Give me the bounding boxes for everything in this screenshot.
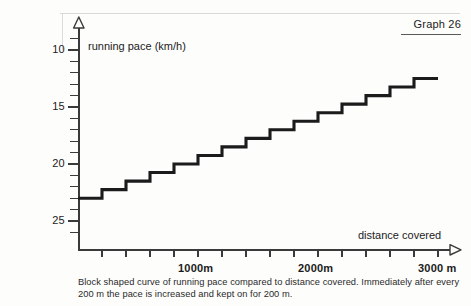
x-tick bbox=[317, 250, 318, 257]
x-tick-label: 2000m bbox=[298, 262, 333, 274]
y-tick-minor bbox=[70, 232, 78, 233]
y-tick-label: 20 bbox=[39, 157, 65, 169]
x-tick bbox=[413, 250, 414, 257]
y-tick-minor bbox=[70, 95, 78, 96]
y-axis-arrow-icon bbox=[74, 17, 84, 28]
graph-page: Graph 26 running pace (km/h) distance co… bbox=[0, 0, 471, 306]
y-tick-minor bbox=[70, 209, 78, 210]
y-tick-label: 10 bbox=[39, 43, 65, 55]
x-tick bbox=[197, 250, 198, 257]
x-tick bbox=[101, 250, 102, 257]
x-axis-title: distance covered bbox=[358, 229, 441, 241]
x-tick bbox=[293, 250, 294, 257]
plot-area: running pace (km/h) distance covered 252… bbox=[0, 0, 471, 306]
x-tick-label: 1000m bbox=[178, 262, 213, 274]
x-tick bbox=[221, 250, 222, 257]
y-axis-line bbox=[78, 28, 80, 250]
x-tick bbox=[245, 250, 246, 257]
y-tick-minor bbox=[70, 72, 78, 73]
x-axis-line bbox=[78, 249, 450, 251]
x-tick bbox=[269, 250, 270, 257]
y-tick-minor bbox=[70, 61, 78, 62]
x-axis-arrow-icon bbox=[450, 245, 461, 255]
y-tick-major bbox=[68, 220, 78, 221]
x-tick-label: 3000 m bbox=[418, 262, 457, 274]
x-tick bbox=[389, 250, 390, 257]
y-tick-label: 15 bbox=[39, 100, 65, 112]
y-tick-major bbox=[68, 163, 78, 164]
y-tick-minor bbox=[70, 141, 78, 142]
y-tick-minor bbox=[70, 129, 78, 130]
y-tick-minor bbox=[70, 38, 78, 39]
y-tick-major bbox=[68, 49, 78, 50]
x-tick bbox=[365, 250, 366, 257]
step-curve-path bbox=[78, 79, 438, 199]
x-tick bbox=[341, 250, 342, 257]
y-tick-minor bbox=[70, 84, 78, 85]
figure-caption: Block shaped curve of running pace compa… bbox=[78, 276, 463, 300]
y-tick-minor bbox=[70, 198, 78, 199]
x-tick bbox=[149, 250, 150, 257]
y-tick-minor bbox=[70, 175, 78, 176]
y-tick-label: 25 bbox=[39, 214, 65, 226]
y-axis-title: running pace (km/h) bbox=[88, 40, 186, 52]
y-tick-minor bbox=[70, 186, 78, 187]
y-tick-major bbox=[68, 106, 78, 107]
x-tick bbox=[437, 250, 438, 257]
y-tick-minor bbox=[70, 118, 78, 119]
y-tick-minor bbox=[70, 152, 78, 153]
x-tick bbox=[125, 250, 126, 257]
x-tick bbox=[173, 250, 174, 257]
